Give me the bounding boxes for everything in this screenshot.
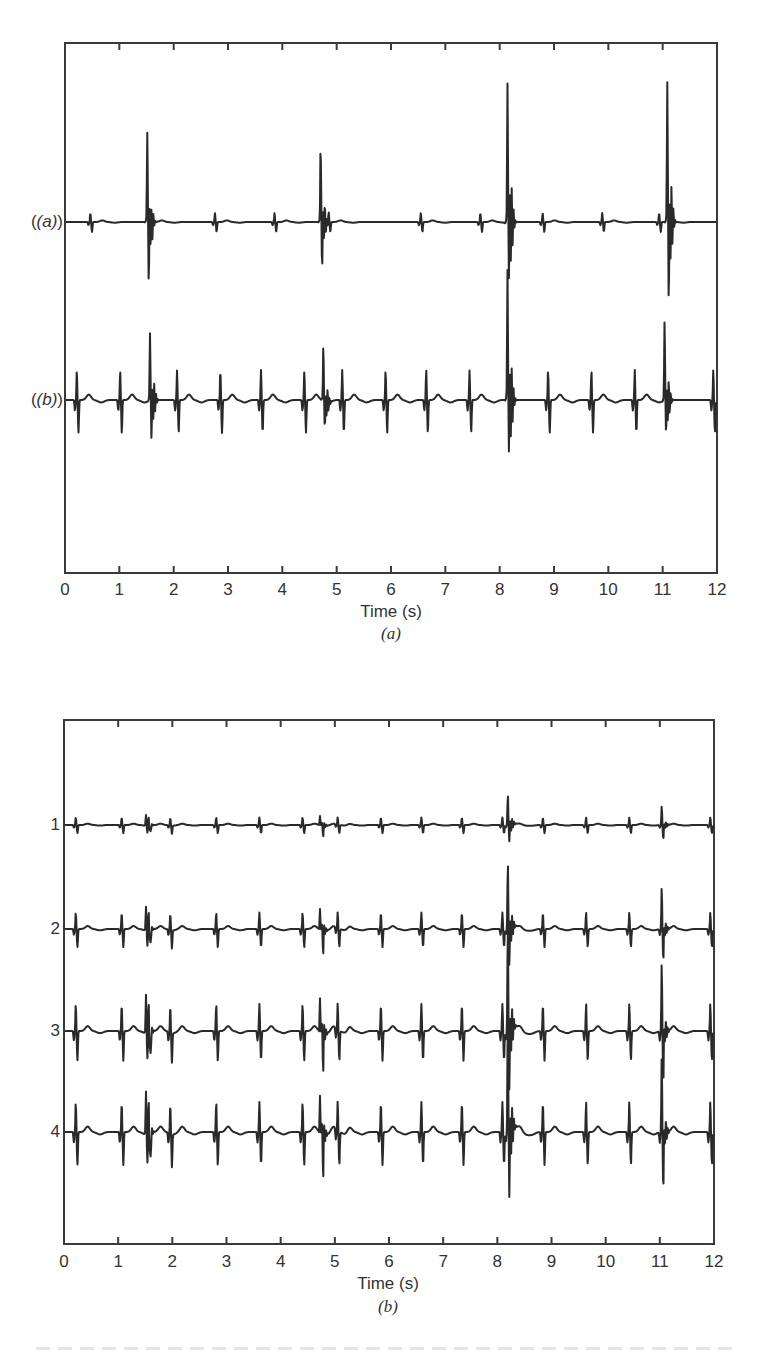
- panel-b-sub-caption: (b): [378, 1297, 398, 1317]
- panel-b-axes-frame: [64, 720, 714, 1244]
- x-tick-label: 10: [596, 1252, 615, 1272]
- x-tick-label: 11: [651, 1252, 669, 1272]
- trace-4: [65, 1018, 713, 1197]
- panel-b-ticks: [118, 720, 660, 1244]
- x-tick-label: 6: [384, 1252, 393, 1272]
- trace-1: [65, 797, 713, 842]
- trace-3: [65, 929, 713, 1090]
- row-label-2: 2: [51, 919, 60, 939]
- x-tick-label: 0: [59, 1252, 68, 1272]
- x-tick-label: 1: [113, 1252, 122, 1272]
- x-tick-label: 9: [547, 1252, 556, 1272]
- row-label-1: 1: [51, 815, 60, 835]
- x-tick-label: 2: [168, 1252, 177, 1272]
- panel-b-x-axis-label: Time (s): [357, 1274, 419, 1294]
- x-tick-label: 12: [705, 1252, 724, 1272]
- x-tick-label: 3: [222, 1252, 231, 1272]
- trace-2: [65, 866, 713, 964]
- x-tick-label: 4: [276, 1252, 285, 1272]
- figure-caption-clipped: [0, 1341, 776, 1353]
- figure-caption-ghost: [36, 1347, 736, 1350]
- x-tick-label: 5: [330, 1252, 339, 1272]
- row-label-4: 4: [51, 1122, 60, 1142]
- panel-b: 1 2 3 4 0123456789101112 Time (s) (b): [0, 0, 776, 1330]
- x-tick-label: 8: [493, 1252, 502, 1272]
- panel-b-plot: [0, 0, 776, 1330]
- row-label-3: 3: [51, 1021, 60, 1041]
- x-tick-label: 7: [438, 1252, 447, 1272]
